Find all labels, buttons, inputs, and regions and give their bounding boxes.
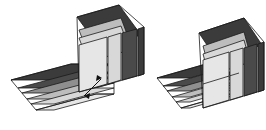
assembly-diagram bbox=[0, 0, 266, 130]
panel-layer-dark-core bbox=[244, 44, 257, 96]
panel-layer-outer-dark-skin bbox=[138, 27, 144, 76]
figure-root: Right-angle joint assembly of two multi-… bbox=[0, 0, 266, 130]
panel-layer-pale-face-ply bbox=[108, 33, 121, 84]
panel-layer-dark-core bbox=[122, 29, 137, 80]
panel-layer-lightest-face bbox=[79, 37, 107, 92]
panel-layer-outer-dark-skin bbox=[258, 42, 264, 92]
